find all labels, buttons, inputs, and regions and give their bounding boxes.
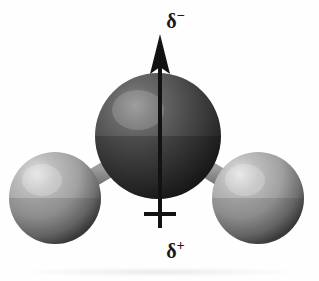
oxygen-specular-highlight [112,90,164,130]
positive-sign-glyph: + [177,237,185,253]
delta-positive-glyph: δ [166,240,176,262]
delta-positive-label: δ+ [16,238,319,261]
hydrogen-right-specular-highlight [225,164,265,196]
hydrogen-atom-left [9,152,101,244]
dipole-arrow-crossbar [144,212,176,216]
hydrogen-left-specular-highlight [22,164,62,196]
delta-negative-glyph: δ [166,10,176,32]
dipole-arrow-shaft [158,60,162,228]
negative-sign-glyph: − [177,7,185,23]
delta-negative-label: δ− [16,8,319,31]
hydrogen-atom-right [212,152,304,244]
ground-shadow [19,267,299,277]
molecule-figure: δ− δ+ [0,0,319,281]
